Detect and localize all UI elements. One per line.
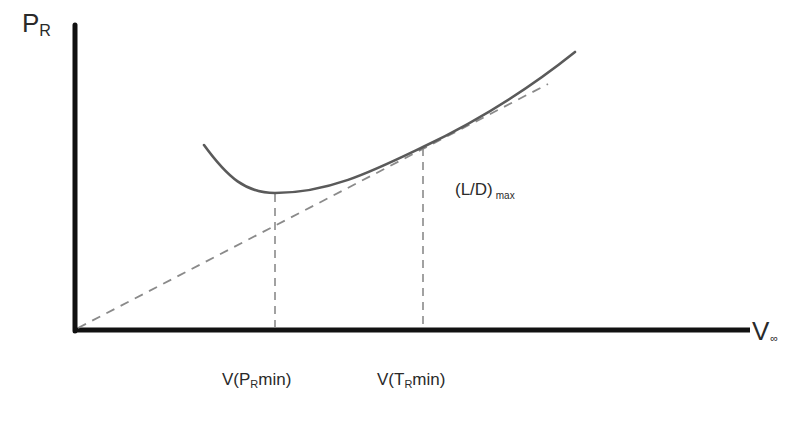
x-tick-v-pr-min: V(PRmin) (222, 370, 291, 390)
y-axis-label: PR (22, 8, 51, 40)
power-required-curve (204, 52, 575, 193)
x-axis-label: V∞ (752, 316, 778, 347)
tangent-line-ld-max (78, 84, 548, 328)
x-tick-v-tr-min: V(TRmin) (377, 370, 445, 390)
ld-max-annotation: (L/D)max (455, 180, 515, 201)
